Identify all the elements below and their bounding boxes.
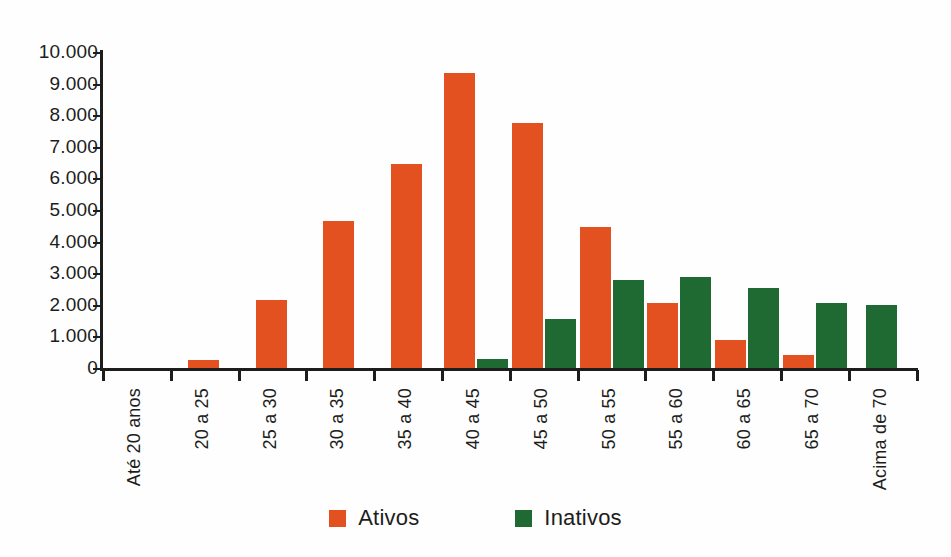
bar-ativos[interactable] [188, 360, 219, 368]
bar-inativos[interactable] [613, 280, 644, 368]
x-tick-mark [577, 370, 580, 381]
legend-swatch-icon [329, 510, 346, 527]
bar-ativos[interactable] [444, 73, 475, 368]
legend-swatch-icon [515, 510, 532, 527]
y-tick-label: 10.000 [39, 41, 98, 63]
bar-inativos[interactable] [866, 305, 897, 368]
bar-ativos[interactable] [783, 355, 814, 368]
legend-label: Inativos [544, 505, 621, 531]
x-axis-category-label: 60 a 65 [734, 388, 755, 449]
bar-ativos[interactable] [323, 221, 354, 368]
x-tick-mark [712, 370, 715, 381]
bar-ativos[interactable] [512, 123, 543, 368]
y-tick-label: 3.000 [49, 262, 98, 284]
x-axis-category-label: 40 a 45 [463, 388, 484, 449]
x-tick-mark [305, 370, 308, 381]
x-axis-category-label: 20 a 25 [192, 388, 213, 449]
x-tick-mark [441, 370, 444, 381]
plot-area: 10.0009.0008.0007.0006.0005.0004.0003.00… [102, 52, 916, 368]
bar-inativos[interactable] [816, 303, 847, 368]
x-tick-mark [373, 370, 376, 381]
x-axis-category-label: 50 a 55 [599, 388, 620, 449]
bar-ativos[interactable] [256, 300, 287, 368]
bar-ativos[interactable] [715, 340, 746, 368]
x-tick-mark [509, 370, 512, 381]
x-axis-category-label: Acima de 70 [870, 388, 891, 490]
y-tick-label: 5.000 [49, 199, 98, 221]
y-tick-label: 6.000 [49, 167, 98, 189]
y-tick-label: 4.000 [49, 230, 98, 252]
bar-ativos[interactable] [391, 164, 422, 368]
bar-inativos[interactable] [545, 319, 576, 368]
y-tick-label: 8.000 [49, 104, 98, 126]
x-tick-mark [102, 370, 105, 381]
chart-page: 10.0009.0008.0007.0006.0005.0004.0003.00… [0, 0, 951, 557]
bar-inativos[interactable] [477, 359, 508, 368]
x-tick-mark [238, 370, 241, 381]
y-tick-label: 2.000 [49, 293, 98, 315]
x-axis-category-label: 45 a 50 [531, 388, 552, 449]
bar-ativos[interactable] [580, 227, 611, 368]
y-tick-label: 9.000 [49, 72, 98, 94]
x-axis-category-label: 30 a 35 [327, 388, 348, 449]
legend-item[interactable]: Inativos [515, 505, 621, 531]
x-axis-category-label: Até 20 anos [124, 388, 145, 486]
bar-ativos[interactable] [647, 303, 678, 368]
y-tick-label: 0 [87, 357, 98, 379]
x-tick-mark [644, 370, 647, 381]
x-tick-mark [170, 370, 173, 381]
x-tick-mark [780, 370, 783, 381]
bar-inativos[interactable] [680, 277, 711, 368]
bar-inativos[interactable] [748, 288, 779, 368]
x-axis-category-label: 25 a 30 [260, 388, 281, 449]
legend-label: Ativos [358, 505, 419, 531]
x-axis-category-label: 35 a 40 [395, 388, 416, 449]
y-tick-label: 7.000 [49, 135, 98, 157]
x-axis-category-label: 55 a 60 [666, 388, 687, 449]
y-tick-label: 1.000 [49, 325, 98, 347]
x-axis-category-label: 65 a 70 [802, 388, 823, 449]
legend-item[interactable]: Ativos [329, 505, 419, 531]
x-tick-mark [848, 370, 851, 381]
x-tick-mark [916, 370, 919, 381]
chart-legend: AtivosInativos [0, 505, 951, 531]
